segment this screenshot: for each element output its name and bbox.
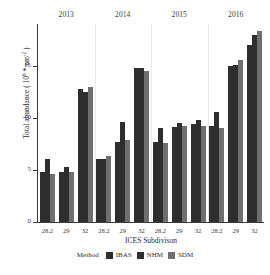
bar-group-2013-28.2	[40, 24, 55, 222]
y-tick-label-15: 15	[17, 61, 31, 69]
bar-group-2015-29	[172, 24, 187, 222]
panel-separator	[208, 24, 209, 222]
x-tick-label-2016-32: 32	[247, 225, 263, 236]
panel-label-2013: 2013	[38, 8, 95, 22]
bar-group-2014-32	[134, 24, 149, 222]
y-tick-label-10: 10	[17, 113, 31, 121]
y-tick-mark-5	[33, 170, 37, 171]
x-tick-label-2013-29: 29	[58, 225, 74, 236]
panel-separator	[151, 24, 152, 222]
panel-2013	[38, 24, 95, 222]
bar-SDM-2015-32[interactable]	[201, 126, 206, 222]
legend-swatch-sdm	[168, 252, 175, 259]
bar-group-2016-32	[247, 24, 262, 222]
panel-2014	[95, 24, 152, 222]
bar-group-2015-28.2	[153, 24, 168, 222]
bar-SDM-2015-28.2[interactable]	[163, 143, 168, 222]
bar-group-2013-32	[78, 24, 93, 222]
x-tick-label-2015-32: 32	[190, 225, 206, 236]
y-axis-title-exp1: 6	[21, 73, 27, 76]
bar-SDM-2016-32[interactable]	[257, 31, 262, 222]
y-tick-mark-15	[33, 66, 37, 67]
panel-separator	[95, 24, 96, 222]
x-axis-title: ICES Subdivison	[38, 236, 264, 245]
legend-title: Method	[77, 251, 99, 259]
bar-group-2016-29	[228, 24, 243, 222]
y-axis-title-suffix: )	[22, 48, 31, 52]
x-tick-panel-2016: 28.22932	[208, 225, 265, 236]
bar-SDM-2013-28.2[interactable]	[50, 174, 55, 222]
panel-label-2014: 2014	[95, 8, 152, 22]
plot-area	[38, 24, 264, 222]
bar-group-2014-29	[115, 24, 130, 222]
panel-year-strip: 2013 2014 2015 2016	[38, 8, 264, 22]
x-tick-panel-2015: 28.22932	[151, 225, 208, 236]
x-tick-label-2016-28.2: 28.2	[209, 225, 225, 236]
bar-group-2013-29	[59, 24, 74, 222]
bar-group-2016-28.2	[209, 24, 224, 222]
bar-SDM-2013-32[interactable]	[88, 87, 93, 222]
x-tick-label-2015-29: 29	[171, 225, 187, 236]
bar-SDM-2015-29[interactable]	[182, 126, 187, 222]
x-tick-label-2015-28.2: 28.2	[152, 225, 168, 236]
legend-item-sdm[interactable]: SDM	[168, 251, 193, 259]
x-tick-label-2014-32: 32	[134, 225, 150, 236]
panel-label-2016: 2016	[208, 8, 265, 22]
y-tick-mark-0	[33, 222, 37, 223]
x-tick-label-2016-29: 29	[228, 225, 244, 236]
chart-legend: Method IBAS NHM SDM	[0, 251, 270, 259]
x-tick-panel-2014: 28.22932	[95, 225, 152, 236]
bar-SDM-2016-29[interactable]	[238, 60, 243, 222]
y-axis-title-exp2: -2	[21, 52, 27, 56]
y-axis-title-prefix: Total abundance ( 10	[22, 76, 31, 139]
bar-SDM-2014-29[interactable]	[125, 140, 130, 222]
legend-item-ibas[interactable]: IBAS	[106, 251, 132, 259]
bar-SDM-2013-29[interactable]	[69, 172, 74, 222]
bar-SDM-2014-32[interactable]	[144, 71, 149, 222]
y-axis-title: Total abundance ( 106 * nm-2 )	[21, 13, 32, 173]
legend-swatch-ibas	[106, 252, 113, 259]
legend-item-nhm[interactable]: NHM	[137, 251, 163, 259]
panel-2016	[208, 24, 265, 222]
x-tick-label-2014-29: 29	[115, 225, 131, 236]
bar-SDM-2014-28.2[interactable]	[106, 156, 111, 222]
bar-chart-figure: 2013 2014 2015 2016 Total abundance ( 10…	[0, 0, 270, 275]
x-tick-label-2013-28.2: 28.2	[39, 225, 55, 236]
legend-label-nhm: NHM	[147, 251, 163, 259]
y-tick-mark-10	[33, 118, 37, 119]
x-tick-label-2013-32: 32	[77, 225, 93, 236]
panel-label-2015: 2015	[151, 8, 208, 22]
legend-swatch-nhm	[137, 252, 144, 259]
bar-group-2015-32	[191, 24, 206, 222]
y-tick-label-0: 0	[17, 217, 31, 225]
y-tick-label-5: 5	[17, 165, 31, 173]
legend-label-ibas: IBAS	[116, 251, 132, 259]
x-tick-label-2014-28.2: 28.2	[96, 225, 112, 236]
panel-2015	[151, 24, 208, 222]
bar-SDM-2016-28.2[interactable]	[219, 128, 224, 222]
x-axis-ticks: 28.2293228.2293228.2293228.22932	[38, 225, 264, 236]
x-tick-panel-2013: 28.22932	[38, 225, 95, 236]
x-axis-line	[38, 222, 264, 223]
legend-label-sdm: SDM	[178, 251, 193, 259]
bar-group-2014-28.2	[96, 24, 111, 222]
